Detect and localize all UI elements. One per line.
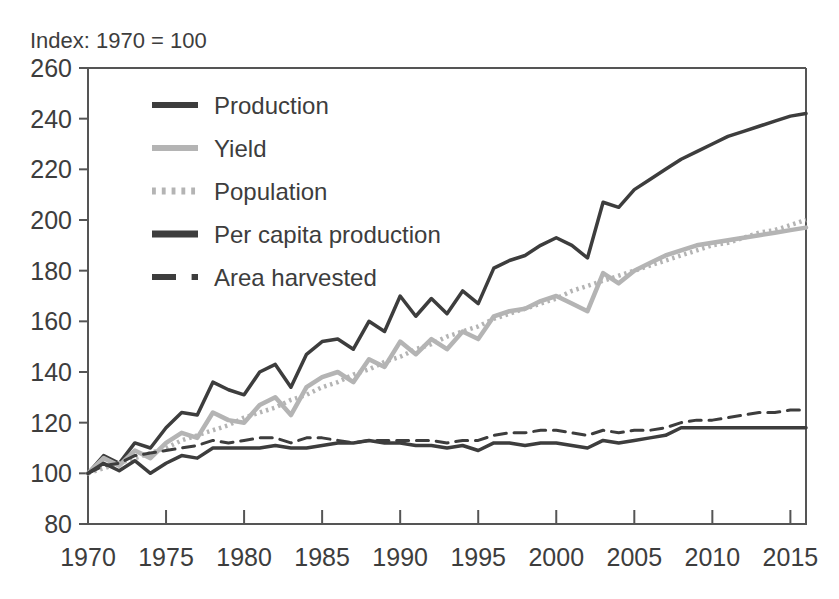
y-tick-label: 220 <box>30 155 72 183</box>
chart-subtitle: Index: 1970 = 100 <box>30 28 207 53</box>
x-tick-label: 1990 <box>372 543 428 571</box>
y-tick-label: 140 <box>30 358 72 386</box>
x-tick-label: 1980 <box>216 543 272 571</box>
y-tick-label: 180 <box>30 257 72 285</box>
chart-container: Index: 1970 = 100 8010012014016018020022… <box>0 0 839 599</box>
y-tick-label: 120 <box>30 409 72 437</box>
x-tick-label: 2010 <box>685 543 741 571</box>
legend-label: Production <box>214 92 329 119</box>
y-tick-label: 200 <box>30 206 72 234</box>
y-tick-label: 160 <box>30 307 72 335</box>
x-tick-label: 2015 <box>763 543 819 571</box>
legend-label: Population <box>214 178 327 205</box>
x-tick-label: 2005 <box>606 543 662 571</box>
y-tick-label: 80 <box>44 510 72 538</box>
y-tick-label: 260 <box>30 54 72 82</box>
x-tick-label: 2000 <box>528 543 584 571</box>
x-tick-label: 1970 <box>60 543 116 571</box>
legend-label: Per capita production <box>214 221 441 248</box>
x-tick-label: 1985 <box>294 543 350 571</box>
legend-label: Yield <box>214 135 266 162</box>
y-tick-label: 100 <box>30 459 72 487</box>
y-tick-label: 240 <box>30 105 72 133</box>
index-line-chart: Index: 1970 = 100 8010012014016018020022… <box>0 0 839 599</box>
legend-label: Area harvested <box>214 264 377 291</box>
chart-background <box>0 0 839 599</box>
x-tick-label: 1995 <box>450 543 506 571</box>
x-tick-label: 1975 <box>138 543 194 571</box>
